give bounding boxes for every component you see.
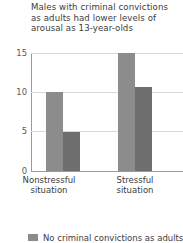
bar-1-series-1	[46, 92, 63, 171]
y-tick-label-5: 5	[3, 127, 27, 135]
x-axis-label-stressful: Stressful situation	[100, 175, 170, 196]
bar-2-series-2	[135, 87, 152, 171]
bar-1-series-2	[63, 132, 80, 171]
plot-area	[31, 53, 183, 171]
x-axis-line	[31, 171, 183, 172]
y-tick-label-15: 15	[3, 49, 27, 57]
x-axis-label-nonstressful-line-2: situation	[14, 185, 84, 195]
chart-title-line-1: Males with criminal convictions	[31, 2, 181, 13]
chart-title-line-2: as adults had lower levels of	[31, 13, 181, 24]
gridline-15	[31, 53, 183, 54]
legend-label-series-1: No criminal convictions as adults	[43, 234, 183, 243]
legend-swatch-series-1	[28, 234, 38, 241]
bar-2-series-1	[118, 53, 135, 171]
x-axis-label-nonstressful-line-1: Nonstressful	[14, 175, 84, 185]
x-axis-label-stressful-line-2: situation	[100, 185, 170, 195]
y-tick-label-10: 10	[3, 88, 27, 96]
chart-title: Males with criminal convictions as adult…	[31, 2, 181, 34]
chart-title-line-3: arousal as 13-year-olds	[31, 23, 181, 34]
x-axis-label-nonstressful: Nonstressful situation	[14, 175, 84, 196]
y-axis-tick-labels: 15 10 5 0	[0, 0, 27, 243]
chart-legend: No criminal convictions as adults	[28, 234, 183, 243]
chart-figure: Males with criminal convictions as adult…	[0, 0, 183, 243]
x-axis-label-stressful-line-1: Stressful	[100, 175, 170, 185]
